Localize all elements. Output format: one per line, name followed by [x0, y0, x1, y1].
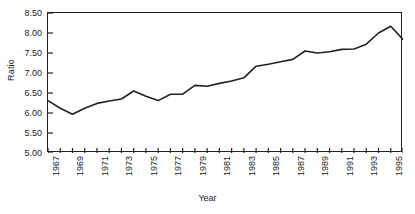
y-tick-label: 6.50 — [12, 89, 42, 98]
y-axis-tick-labels: 8.50 8.00 7.50 7.00 6.50 6.00 5.50 5.00 — [8, 0, 42, 160]
y-tick-label: 5.50 — [12, 129, 42, 138]
y-tick-label: 8.00 — [12, 29, 42, 38]
plot-area — [47, 12, 402, 152]
y-tick-label: 6.00 — [12, 109, 42, 118]
x-axis-title: Year — [0, 193, 415, 203]
x-axis-ticks — [48, 148, 403, 153]
y-tick-label: 8.50 — [12, 9, 42, 18]
y-tick-label: 7.00 — [12, 69, 42, 78]
series-ratio-line — [48, 26, 403, 114]
y-axis-ticks — [48, 13, 53, 153]
chart-figure: Ratio 8.50 8.00 7.50 7.00 6.50 6.00 5.50… — [0, 0, 415, 214]
y-tick-label: 7.50 — [12, 49, 42, 58]
data-line-series — [48, 13, 403, 153]
